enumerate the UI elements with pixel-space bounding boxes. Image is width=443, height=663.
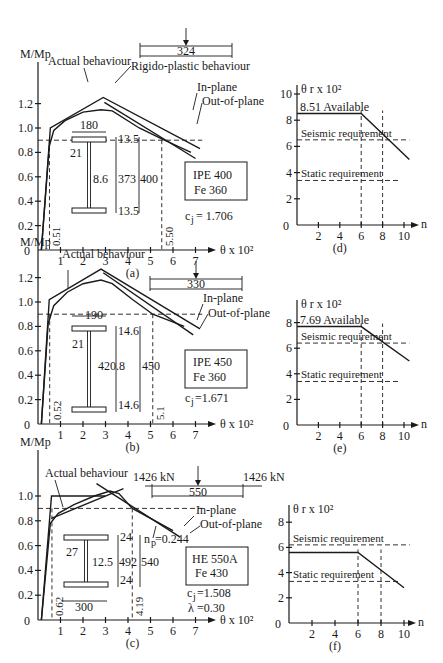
y-tick-label: 0.2 bbox=[18, 588, 33, 602]
rigid-plastic-label: Rigido-plastic behaviour bbox=[131, 59, 250, 73]
seismic-label: Seismic requirement bbox=[301, 330, 392, 342]
depth-label: 450 bbox=[142, 359, 160, 373]
out-of-plane-label: Out-of-plane bbox=[208, 306, 270, 320]
seismic-label: Seismic requirement bbox=[293, 532, 384, 544]
y-tick-label: 0.2 bbox=[18, 219, 33, 233]
x-axis-label: θ x 10² bbox=[220, 243, 254, 257]
root-radius-label: 27 bbox=[66, 545, 78, 559]
web-depth-label: 373 bbox=[118, 172, 136, 186]
web-thickness-label: 12.5 bbox=[92, 555, 113, 569]
origin-label: 0 bbox=[283, 419, 289, 433]
root-radius-label: 21 bbox=[72, 337, 84, 351]
x-tick-label: 8 bbox=[378, 627, 384, 641]
out-of-plane-label: Out-of-plane bbox=[202, 94, 264, 108]
y-tick-label: 0.8 bbox=[18, 514, 33, 528]
x-tick-label: 2 bbox=[315, 229, 321, 243]
y-tick-label: 0.8 bbox=[18, 145, 33, 159]
panel-e: 24681024680θ r x 10²n(e)Seismic requirem… bbox=[283, 297, 427, 455]
y-tick-label: 1.2 bbox=[18, 271, 33, 285]
y-tick-label: 0.4 bbox=[18, 563, 33, 577]
static-label: Static requirement bbox=[293, 568, 374, 580]
leader bbox=[84, 68, 88, 82]
leader bbox=[193, 93, 197, 110]
panel-d: 2468102468100θ r x 10²n(d)Seismic requir… bbox=[280, 82, 427, 255]
y-tick-label: 0.4 bbox=[18, 368, 33, 382]
x-axis-arrow bbox=[411, 222, 419, 228]
y-tick-label: 8 bbox=[286, 316, 292, 330]
origin-label: 0 bbox=[24, 614, 30, 628]
panel-label: (f) bbox=[329, 639, 341, 653]
section-name: HE 550A bbox=[192, 552, 238, 566]
y-tick-label: 8 bbox=[286, 113, 292, 127]
lambda-label: λ bbox=[188, 601, 194, 615]
beam-span-label: 550 bbox=[189, 485, 207, 499]
x-tick-label: 6 bbox=[170, 254, 176, 268]
origin-label: 0 bbox=[275, 617, 281, 631]
flange-bottom-label: 13.5 bbox=[118, 204, 139, 218]
x-tick-label: 3 bbox=[103, 624, 109, 638]
figure: 12345670.20.40.60.81.01.20M/Mpθ x 10²(a)… bbox=[0, 0, 443, 663]
x-tick-label: 6 bbox=[170, 428, 176, 442]
beam-span-label: 324 bbox=[177, 44, 195, 58]
actual-behaviour-label: Actual behaviour bbox=[45, 466, 128, 480]
bottom-flange bbox=[72, 407, 106, 412]
top-flange bbox=[72, 137, 106, 142]
panel-label: (e) bbox=[333, 441, 346, 455]
section-name: IPE 450 bbox=[193, 355, 232, 369]
y-tick-label: 2 bbox=[286, 392, 292, 406]
panel-label: (c) bbox=[126, 636, 139, 650]
depth-label: 540 bbox=[141, 555, 159, 569]
x-axis-label: n bbox=[421, 417, 427, 431]
y-axis-label: M/Mp bbox=[20, 235, 51, 249]
panel-label: (a) bbox=[126, 266, 139, 280]
y-tick-label: 1.0 bbox=[18, 295, 33, 309]
bottom-flange bbox=[72, 208, 106, 213]
cj-value: =1.671 bbox=[195, 391, 229, 405]
steel-grade: Fe 360 bbox=[193, 370, 226, 384]
y-tick-label: 0.2 bbox=[18, 393, 33, 407]
flange-width-label: 300 bbox=[75, 600, 93, 614]
web-thickness-label: 8.6 bbox=[93, 172, 108, 186]
y-tick-label: 0.4 bbox=[18, 194, 33, 208]
flange-bottom-label: 24 bbox=[120, 573, 132, 587]
x-axis-arrow bbox=[411, 422, 419, 428]
x-tick-label: 10 bbox=[398, 429, 410, 443]
flange-width-label: 190 bbox=[85, 308, 103, 322]
actual-behaviour-label: Actual behaviour bbox=[48, 54, 131, 68]
y-tick-label: 1.0 bbox=[18, 121, 33, 135]
x-tick-label: 7 bbox=[193, 254, 199, 268]
x-tick-label: 8 bbox=[380, 429, 386, 443]
x-axis-arrow bbox=[208, 247, 216, 253]
x-tick-label: 1 bbox=[58, 428, 64, 442]
x-axis-arrow bbox=[208, 617, 216, 623]
leader bbox=[55, 480, 63, 507]
series-line bbox=[103, 273, 193, 335]
y-tick-label: 0.6 bbox=[18, 170, 33, 184]
y-tick-label: 1.0 bbox=[18, 489, 33, 503]
x-tick-label: 2 bbox=[80, 428, 86, 442]
x-tick-label: 2 bbox=[80, 624, 86, 638]
marker-label: 0.52 bbox=[51, 401, 63, 420]
x-axis-label: n bbox=[418, 615, 424, 629]
seismic-label: Seismic requirement bbox=[301, 127, 392, 139]
depth-label: 400 bbox=[140, 172, 158, 186]
panel-f: 24681024680θ r x 10²n(f)Seismic requirem… bbox=[275, 502, 424, 653]
y-tick-label: 6 bbox=[286, 341, 292, 355]
marker-label: 4.19 bbox=[133, 596, 145, 616]
available-label: 7.69 Available bbox=[300, 313, 369, 327]
root-radius-label: 21 bbox=[70, 146, 82, 160]
flange-bottom-label: 14.6 bbox=[118, 398, 139, 412]
y-tick-label: 0.6 bbox=[18, 344, 33, 358]
series-line bbox=[41, 280, 184, 424]
origin-label: 0 bbox=[24, 418, 30, 432]
steel-grade: Fe 430 bbox=[195, 566, 228, 580]
top-flange bbox=[64, 535, 108, 540]
flange-top-label: 13.5 bbox=[118, 132, 139, 146]
y-tick-label: 4 bbox=[278, 566, 284, 580]
x-tick-label: 8 bbox=[380, 229, 386, 243]
marker-label: 0.51 bbox=[50, 227, 62, 246]
x-tick-label: 1 bbox=[58, 624, 64, 638]
marker-label: 0.62 bbox=[53, 597, 65, 616]
flange-top-label: 14.6 bbox=[118, 324, 139, 338]
cj-label: c bbox=[185, 209, 190, 223]
